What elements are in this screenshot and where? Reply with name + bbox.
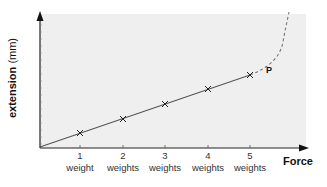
x-marker-icon xyxy=(247,72,253,78)
data-markers xyxy=(77,72,253,136)
y-axis-label-text: extension xyxy=(6,67,18,118)
y-axis-label-unit: (mm) xyxy=(6,38,18,64)
x-tick-label: 5weights xyxy=(225,150,275,174)
x-axis-arrow-icon xyxy=(299,145,309,152)
y-axis-arrow-icon xyxy=(37,11,44,21)
x-axis-label: Force xyxy=(283,155,313,167)
proportional-line xyxy=(40,75,250,147)
point-p-label: P xyxy=(266,65,272,75)
y-axis-label: extension (mm) xyxy=(6,38,18,118)
